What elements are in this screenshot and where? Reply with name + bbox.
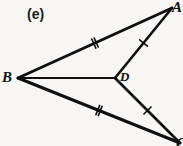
vertex-label-a: A bbox=[172, 0, 182, 15]
vertex-label-c: C bbox=[176, 136, 183, 146]
vertex-label-d: D bbox=[120, 70, 129, 83]
geometry-figure: (e) B A D C bbox=[0, 0, 183, 146]
vertex-label-b: B bbox=[2, 70, 12, 85]
segments-group bbox=[18, 8, 180, 143]
part-label: (e) bbox=[27, 7, 44, 21]
segment-bc bbox=[18, 78, 180, 143]
